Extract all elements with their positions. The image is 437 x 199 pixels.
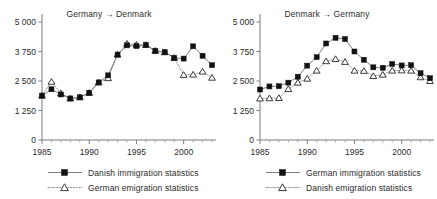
data-point-marker-square [68, 96, 73, 101]
data-point-marker-square [200, 53, 205, 58]
x-tick-label: 1990 [80, 147, 99, 157]
data-point-marker-square [143, 42, 148, 47]
legend-key-svg-left-1 [47, 182, 83, 193]
legend-item-right-0: German immigration statistics [218, 165, 436, 180]
x-tick-label: 1985 [33, 147, 52, 157]
data-point-marker-square [295, 74, 300, 79]
y-tick-label: 1 250 [15, 106, 37, 116]
data-point-marker-square [172, 55, 177, 60]
data-point-marker-square [106, 73, 111, 78]
data-point-marker-triangle [285, 86, 292, 92]
data-point-marker-triangle [379, 71, 386, 77]
y-tick-label: 5 000 [15, 17, 37, 27]
y-tick-label: 2 500 [233, 76, 255, 86]
legend-item-left-1: German emigration statistics [0, 180, 218, 195]
data-point-marker-square [276, 84, 281, 89]
chart-panel-germany-to-denmark: Germany → Denmark 01 2502 5003 7505 0001… [0, 0, 218, 199]
data-point-marker-square [418, 71, 423, 76]
data-point-marker-square [333, 35, 338, 40]
x-tick-label: 2000 [392, 147, 411, 157]
data-point-marker-square [58, 92, 63, 97]
legend-label-right-1: Danish emigration statistics [306, 183, 412, 193]
legend-label-left-1: German emigration statistics [88, 183, 199, 193]
chart-legend-right: German immigration statistics Danish emi… [218, 165, 436, 195]
data-point-marker-square [210, 63, 215, 68]
legend-key-filled-square-solid-icon [47, 167, 83, 178]
legend-key-open-triangle-dotted-icon [265, 182, 301, 193]
data-point-marker-square [428, 76, 433, 81]
data-point-marker-square [87, 90, 92, 95]
data-point-marker-square [115, 52, 120, 57]
data-point-marker-triangle [332, 56, 339, 62]
data-point-marker-square [352, 49, 357, 54]
data-point-marker-square [49, 87, 54, 92]
data-point-marker-square [153, 48, 158, 53]
legend-item-right-1: Danish emigration statistics [218, 180, 436, 195]
legend-item-left-0: Danish immigration statistics [0, 165, 218, 180]
y-tick-label: 1 250 [233, 106, 255, 116]
chart-legend-left: Danish immigration statistics German emi… [0, 165, 218, 195]
data-point-marker-triangle [48, 79, 55, 85]
data-point-marker-square [380, 65, 385, 70]
data-point-marker-square [191, 44, 196, 49]
legend-key-svg-right-1 [265, 182, 301, 193]
y-tick-label: 0 [249, 135, 254, 145]
data-point-marker-square [390, 62, 395, 67]
data-point-marker-triangle [257, 95, 264, 101]
x-tick-label: 1995 [127, 147, 146, 157]
legend-key-filled-square-solid-icon [265, 167, 301, 178]
data-point-marker-square [162, 50, 167, 55]
legend-key-svg-left-0 [47, 167, 83, 178]
x-tick-label: 1985 [251, 147, 270, 157]
y-tick-label: 3 750 [15, 47, 37, 57]
data-point-marker-square [181, 56, 186, 61]
legend-key-svg-right-0 [265, 167, 301, 178]
data-point-marker-square [125, 43, 130, 48]
series-line-0 [42, 45, 212, 99]
y-tick-label: 3 750 [233, 47, 255, 57]
data-point-marker-square [371, 65, 376, 70]
data-point-marker-square [134, 44, 139, 49]
x-tick-label: 1990 [298, 147, 317, 157]
data-point-marker-triangle [313, 67, 320, 73]
x-tick-label: 2000 [174, 147, 193, 157]
y-tick-label: 5 000 [233, 17, 255, 27]
y-tick-label: 2 500 [15, 76, 37, 86]
data-point-marker-square [305, 63, 310, 68]
data-point-marker-square [324, 41, 329, 46]
data-point-marker-square [77, 95, 82, 100]
data-point-marker-square [258, 87, 263, 92]
legend-label-left-0: Danish immigration statistics [88, 168, 199, 178]
data-point-marker-square [361, 57, 366, 62]
data-point-marker-square [399, 63, 404, 68]
legend-key-open-triangle-dotted-icon [47, 182, 83, 193]
data-point-marker-square [314, 55, 319, 60]
data-point-marker-square [96, 80, 101, 85]
data-point-marker-triangle [351, 67, 358, 73]
data-point-marker-square [343, 36, 348, 41]
data-point-marker-triangle [199, 68, 206, 74]
data-point-marker-square [409, 63, 414, 68]
y-tick-label: 0 [31, 135, 36, 145]
data-point-marker-square [267, 84, 272, 89]
data-point-marker-triangle [294, 79, 301, 85]
series-line-1 [42, 44, 212, 99]
chart-panel-denmark-to-germany: Denmark → Germany 01 2502 5003 7505 0001… [218, 0, 436, 199]
data-point-marker-triangle [209, 74, 216, 80]
data-point-marker-square [286, 80, 291, 85]
data-point-marker-square [40, 93, 45, 98]
legend-label-right-0: German immigration statistics [306, 168, 421, 178]
x-tick-label: 1995 [345, 147, 364, 157]
